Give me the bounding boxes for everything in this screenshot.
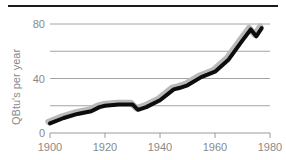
series-shadow-qbtu xyxy=(48,26,260,121)
xtick-label-1980: 1980 xyxy=(258,141,282,153)
y-axis-title: QBtu's per year xyxy=(10,49,22,125)
figure-container: 80 40 0 QBtu's per year 1900 1920 1940 1… xyxy=(0,0,286,160)
ytick-label-80: 80 xyxy=(33,18,45,30)
line-chart: 80 40 0 QBtu's per year 1900 1920 1940 1… xyxy=(0,0,286,160)
xtick-label-1900: 1900 xyxy=(38,141,62,153)
xtick-label-1920: 1920 xyxy=(93,141,117,153)
ytick-label-0: 0 xyxy=(39,127,45,139)
xtick-label-1960: 1960 xyxy=(203,141,227,153)
ytick-label-40: 40 xyxy=(33,73,45,85)
xtick-label-1940: 1940 xyxy=(148,141,172,153)
